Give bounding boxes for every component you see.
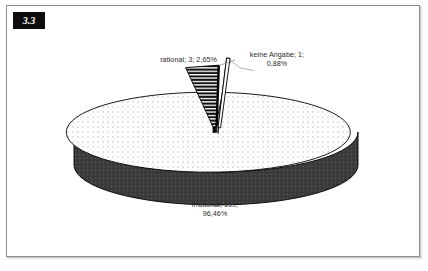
data-label-rational-text: rational; 3; 2,65% (160, 55, 217, 64)
data-label-irrational-line1: irrational; 109; (192, 200, 238, 209)
data-label-irrational-line2: 96,46% (163, 209, 267, 218)
data-label-keine-angabe: keine Angabe; 1; 0,88% (225, 50, 329, 69)
data-label-keine-angabe-line1: keine Angabe; 1; (250, 50, 304, 59)
pie-chart-graphic (7, 6, 421, 258)
figure-frame: 3.3 (6, 5, 420, 257)
data-label-irrational: irrational; 109; 96,46% (163, 200, 267, 219)
data-label-keine-angabe-line2: 0,88% (225, 59, 329, 68)
data-label-rational: rational; 3; 2,65% (117, 55, 217, 64)
pie-chart: rational; 3; 2,65% keine Angabe; 1; 0,88… (7, 6, 421, 258)
